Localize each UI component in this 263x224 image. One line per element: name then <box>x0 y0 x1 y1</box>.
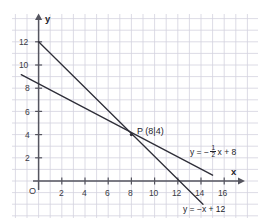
x-tick-12: 12 <box>172 188 181 198</box>
equation-label-line1: y = − 1 2 x + 8 <box>190 145 236 159</box>
y-tick-6: 6 <box>25 107 30 117</box>
y-axis-label: y <box>45 13 50 24</box>
grid-horizontal <box>12 19 258 216</box>
x-tick-16: 16 <box>218 188 227 198</box>
y-tick-10: 10 <box>19 60 28 70</box>
intersection-marker <box>130 133 133 136</box>
x-tick-2: 2 <box>59 188 64 198</box>
eq1-tail: x + 8 <box>218 147 237 157</box>
x-axis-label: x <box>231 166 236 177</box>
equation-label-line2: y = −x + 12 <box>183 204 225 214</box>
x-axis <box>33 177 245 184</box>
x-tick-10: 10 <box>149 188 158 198</box>
y-axis <box>35 14 42 191</box>
y-tick-8: 8 <box>25 83 30 93</box>
coordinate-plot-figure: 12 10 8 6 4 2 2 4 6 8 10 12 14 16 O y x … <box>0 0 263 224</box>
x-tick-14: 14 <box>195 188 204 198</box>
eq1-head: y = − <box>190 147 209 157</box>
y-tick-4: 4 <box>25 130 30 140</box>
point-p-label: P (8|4) <box>137 126 164 136</box>
origin-label: O <box>29 186 36 196</box>
x-tick-4: 4 <box>82 188 87 198</box>
y-tick-12: 12 <box>19 37 28 47</box>
x-tick-8: 8 <box>128 188 133 198</box>
eq1-fraction: 1 2 <box>210 145 216 159</box>
x-tick-6: 6 <box>105 188 110 198</box>
y-tick-2: 2 <box>25 153 30 163</box>
eq1-denominator: 2 <box>210 151 216 159</box>
